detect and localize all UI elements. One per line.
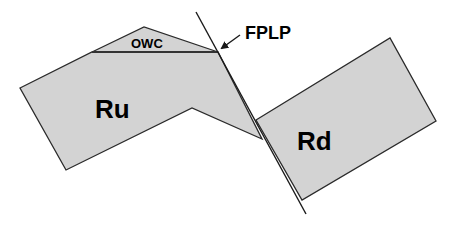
ru-label: Ru	[95, 94, 130, 124]
rd-label: Rd	[297, 126, 332, 156]
reservoir-fault-diagram: OWC Ru Rd FPLP	[0, 0, 454, 225]
fplp-arrow-icon	[222, 35, 240, 48]
rd-reservoir-block	[256, 38, 436, 200]
fplp-label: FPLP	[245, 23, 291, 43]
ru-reservoir-block	[20, 52, 262, 170]
owc-label: OWC	[131, 36, 163, 51]
